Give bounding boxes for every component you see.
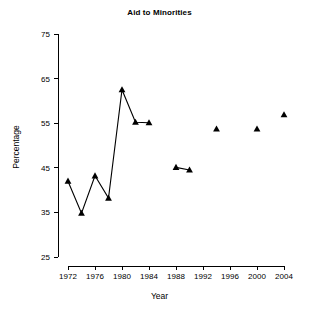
x-tick-label: 1988 xyxy=(167,272,185,281)
data-series-group xyxy=(65,86,288,216)
y-tick-label: 65 xyxy=(41,75,50,84)
y-tick-label: 55 xyxy=(41,119,50,128)
x-tick-label: 1980 xyxy=(113,272,131,281)
data-point-marker xyxy=(92,172,99,178)
x-axis: 197219761980198419881992199620002004 xyxy=(59,266,293,281)
x-tick-label: 2004 xyxy=(275,272,293,281)
data-point-marker xyxy=(173,164,180,170)
data-point-marker xyxy=(254,125,261,131)
data-point-marker xyxy=(105,195,112,201)
data-point-marker xyxy=(281,111,288,117)
data-point-marker xyxy=(132,119,139,125)
data-point-marker xyxy=(213,125,220,131)
y-tick-label: 45 xyxy=(41,164,50,173)
x-axis-label: Year xyxy=(0,291,319,301)
plot-area: 253545556575 197219761980198419881992199… xyxy=(0,0,319,325)
x-tick-label: 1984 xyxy=(140,272,158,281)
x-tick-label: 1992 xyxy=(194,272,212,281)
y-tick-label: 75 xyxy=(41,30,50,39)
y-axis-label: Percentage xyxy=(11,117,21,177)
chart-figure: Aid to Minorities 253545556575 197219761… xyxy=(0,0,319,325)
x-tick-label: 1972 xyxy=(59,272,77,281)
data-point-marker xyxy=(119,86,126,92)
y-tick-label: 25 xyxy=(41,253,50,262)
y-axis: 253545556575 xyxy=(41,30,58,262)
x-tick-label: 2000 xyxy=(248,272,266,281)
y-tick-label: 35 xyxy=(41,208,50,217)
x-tick-label: 1976 xyxy=(86,272,104,281)
data-point-marker xyxy=(65,178,72,184)
data-point-marker xyxy=(78,210,85,216)
x-tick-label: 1996 xyxy=(221,272,239,281)
